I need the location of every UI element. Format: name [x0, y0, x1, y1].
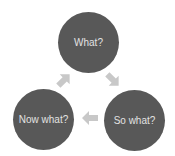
node-what: What?: [58, 12, 119, 73]
arrow-left-icon: [81, 110, 99, 126]
arrow-up-right-icon: [55, 72, 73, 88]
arrow-right-down-icon: [104, 72, 122, 88]
cycle-diagram: What? So what? Now what?: [0, 0, 175, 156]
node-what-label: What?: [74, 37, 103, 48]
node-so-what: So what?: [104, 90, 165, 151]
node-so-what-label: So what?: [114, 115, 156, 126]
node-now-what: Now what?: [13, 89, 74, 150]
node-now-what-label: Now what?: [19, 114, 68, 125]
